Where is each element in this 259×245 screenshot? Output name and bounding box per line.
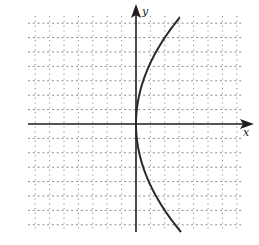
axes — [28, 4, 254, 232]
coordinate-plane: x y — [0, 0, 259, 245]
x-axis-label: x — [243, 126, 250, 139]
y-axis-label: y — [141, 5, 149, 18]
